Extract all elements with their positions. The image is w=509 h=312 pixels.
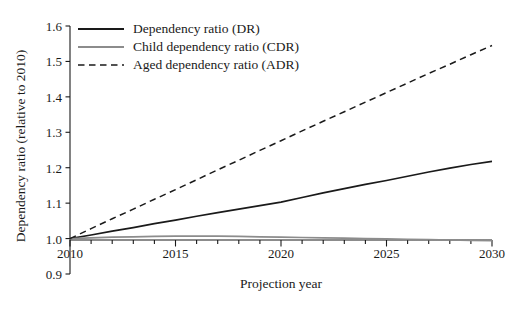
y-tick-label: 1.5 bbox=[28, 55, 62, 68]
y-tick-label: 1.3 bbox=[28, 126, 62, 139]
legend-line-swatch-cdr bbox=[78, 41, 124, 53]
chart-figure: 0.91.01.11.21.31.41.51.6 201020152020202… bbox=[0, 0, 509, 312]
y-tick-label: 0.9 bbox=[28, 268, 62, 281]
y-tick-label: 1.4 bbox=[28, 90, 62, 103]
legend-label: Aged dependency ratio (ADR) bbox=[133, 58, 299, 72]
legend-item-dr[interactable]: Dependency ratio (DR) bbox=[78, 20, 328, 38]
x-tick-label: 2025 bbox=[374, 247, 400, 260]
legend-label: Dependency ratio (DR) bbox=[133, 22, 260, 36]
series-line-dr bbox=[70, 161, 492, 238]
y-tick-label: 1.6 bbox=[28, 20, 62, 33]
x-axis-title: Projection year bbox=[70, 276, 492, 292]
y-tick-label: 1.2 bbox=[28, 161, 62, 174]
y-axis-ticks bbox=[66, 26, 71, 274]
legend-item-cdr[interactable]: Child dependency ratio (CDR) bbox=[78, 38, 328, 56]
legend-line-swatch-dr bbox=[78, 23, 124, 35]
series-line-adr bbox=[70, 45, 492, 238]
legend-item-adr[interactable]: Aged dependency ratio (ADR) bbox=[78, 56, 328, 74]
chart-legend: Dependency ratio (DR)Child dependency ra… bbox=[78, 20, 328, 74]
y-axis-title: Dependency ratio (relative to 2010) bbox=[10, 16, 32, 276]
y-tick-label: 1.1 bbox=[28, 197, 62, 210]
y-tick-label: 1.0 bbox=[28, 232, 62, 245]
x-axis-tick-labels: 20102015202020252030 bbox=[0, 247, 509, 267]
legend-line-swatch-adr bbox=[78, 59, 124, 71]
data-series-layer bbox=[70, 45, 492, 240]
legend-label: Child dependency ratio (CDR) bbox=[133, 40, 299, 54]
x-tick-label: 2030 bbox=[479, 247, 505, 260]
x-tick-label: 2020 bbox=[268, 247, 294, 260]
x-tick-label: 2015 bbox=[163, 247, 189, 260]
x-tick-label: 2010 bbox=[57, 247, 83, 260]
